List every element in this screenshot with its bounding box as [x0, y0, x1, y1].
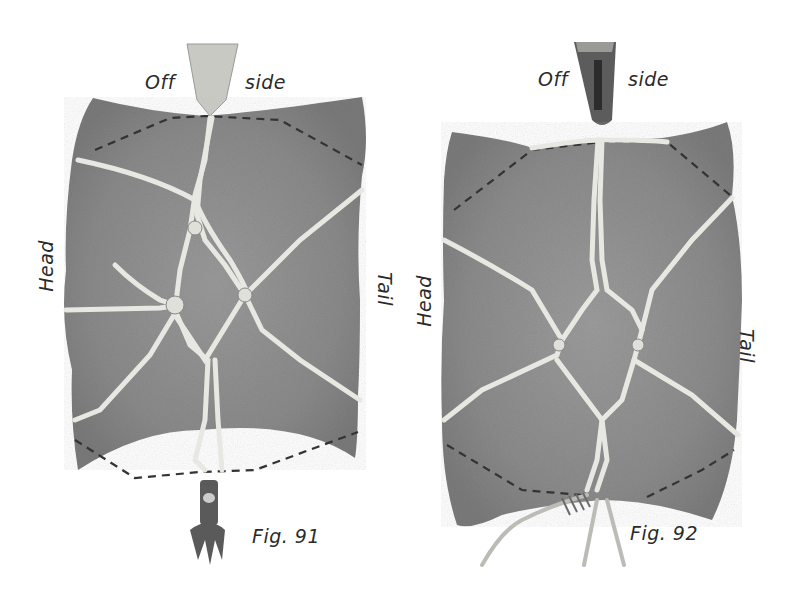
- off-label: Off: [145, 71, 175, 93]
- figure-caption: Fig. 91: [252, 525, 320, 547]
- head-label: Head: [35, 240, 57, 292]
- bottom-hook: [190, 480, 225, 565]
- figure-92-illustration: [402, 0, 804, 594]
- figure-91-illustration: [0, 0, 402, 594]
- head-label: Head: [413, 275, 435, 327]
- top-clip: [574, 42, 616, 125]
- side-label: side: [628, 68, 669, 90]
- tail-label: Tail: [736, 329, 758, 363]
- top-strap: [187, 44, 238, 116]
- side-label: side: [245, 71, 286, 93]
- figure-91: Off side Head Tail Fig. 91: [0, 0, 402, 594]
- hide-bundle: [441, 122, 742, 526]
- figure-caption: Fig. 92: [630, 522, 698, 544]
- tail-label: Tail: [374, 272, 396, 306]
- figure-92: Off side Head Tail Fig. 92: [402, 0, 804, 594]
- off-label: Off: [538, 68, 568, 90]
- hide-bundle: [64, 97, 366, 470]
